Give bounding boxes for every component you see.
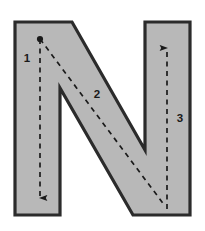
stroke-1-number-label: 1 [24, 52, 31, 64]
letter-n-stroke-order-diagram: 1 2 3 [0, 0, 205, 231]
stroke-3-number-label: 3 [177, 112, 183, 124]
stroke-2-number-label: 2 [94, 88, 100, 100]
letter-n-shape [15, 22, 190, 215]
stroke-order-diagram-canvas: 1 2 3 [0, 0, 205, 231]
